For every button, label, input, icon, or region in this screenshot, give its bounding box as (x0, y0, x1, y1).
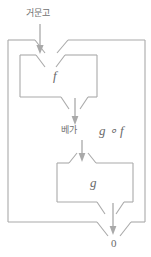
input-label: 거문고 (26, 9, 50, 18)
inner-box-g-label: g (90, 176, 97, 189)
output-arrow-head (110, 226, 117, 235)
intermediate-arrow-head-lower (79, 153, 86, 162)
outer-composition-box-outline (8, 40, 145, 236)
diagram-canvas: 거문고 f 베가 g ∘ f g 0 (0, 0, 151, 257)
composition-label: g ∘ f (99, 124, 124, 137)
inner-box-f-label: f (53, 69, 57, 82)
inner-box-f-outline (20, 55, 97, 109)
intermediate-label: 베가 (61, 126, 77, 135)
intermediate-arrow-head-upper (72, 116, 79, 125)
output-label: 0 (111, 238, 117, 249)
